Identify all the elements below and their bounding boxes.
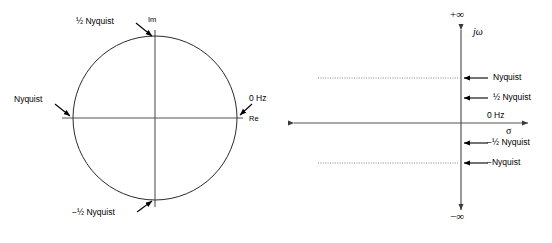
leader-neg-half-nyquist-bottom (137, 201, 152, 212)
leader-nyquist-left (55, 104, 70, 116)
s-label-half-nyquist-pos: ½ Nyquist (493, 93, 531, 102)
s-axis-label-jomega: jω (473, 27, 483, 37)
z-label-nyquist-left: Nyquist (14, 95, 42, 104)
s-axis-label-sigma: σ (506, 126, 511, 136)
z-label-zero-hz: 0 Hz (249, 94, 266, 103)
z-label-half-nyquist-top: ½ Nyquist (76, 17, 114, 26)
z-plane-group (55, 23, 252, 212)
s-label-zero-hz: 0 Hz (487, 111, 504, 120)
z-label-neg-half-nyquist-bottom: −½ Nyquist (72, 208, 115, 217)
s-label-nyquist-neg: −Nyquist (487, 158, 520, 167)
frequency-plane-mapping-figure: ½ Nyquist Im Nyquist 0 Hz Re −½ Nyquist … (0, 0, 552, 243)
z-axis-label-im: Im (148, 16, 156, 24)
s-label-half-nyquist-neg: −½ Nyquist (487, 138, 530, 147)
s-label-minus-infinity: −∞ (450, 211, 464, 222)
s-label-nyquist-pos: Nyquist (493, 73, 521, 82)
s-plane-group (294, 30, 528, 210)
s-label-plus-infinity: +∞ (450, 9, 464, 20)
z-axis-label-re: Re (249, 115, 259, 123)
leader-half-nyquist-top (136, 23, 152, 36)
